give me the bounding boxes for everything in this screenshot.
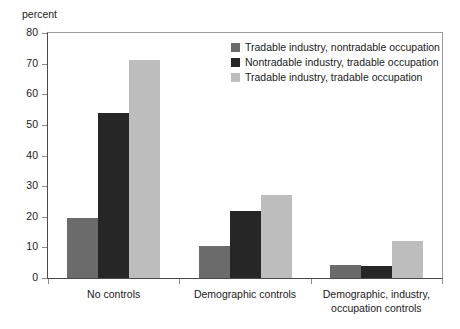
- bar: [199, 246, 230, 278]
- x-axis-category-label-line: occupation controls: [311, 302, 442, 316]
- y-axis-tick-label: 10: [26, 240, 38, 253]
- y-axis-tick-label: 40: [26, 149, 38, 162]
- legend-item: Nontradable industry, tradable occupatio…: [231, 56, 440, 70]
- x-axis-category-label: Demographic controls: [179, 288, 310, 302]
- y-axis-tick-label: 50: [26, 118, 38, 131]
- legend-swatch-icon: [231, 58, 240, 67]
- x-axis-tick-mark: [179, 279, 180, 284]
- bar: [261, 195, 292, 278]
- bar: [330, 265, 361, 278]
- bar: [129, 60, 160, 278]
- legend-swatch-icon: [231, 43, 240, 52]
- legend-item-label: Tradable industry, tradable occupation: [245, 71, 422, 85]
- x-axis-category-label-line: No controls: [48, 288, 179, 302]
- x-axis-tick-mark: [442, 279, 443, 284]
- y-axis-tick-mark: [42, 217, 47, 218]
- y-axis-tick-label: 30: [26, 179, 38, 192]
- x-axis-category-label: No controls: [48, 288, 179, 302]
- x-axis-tick-mark: [311, 279, 312, 284]
- x-axis-tick-mark: [48, 279, 49, 284]
- legend-swatch-icon: [231, 73, 240, 82]
- legend-item: Tradable industry, nontradable occupatio…: [231, 41, 440, 55]
- x-axis-category-label-line: Demographic, industry,: [311, 288, 442, 302]
- y-axis-tick-label: 20: [26, 210, 38, 223]
- y-axis-tick-label: 0: [32, 271, 38, 284]
- x-axis-category-label: Demographic, industry,occupation control…: [311, 288, 442, 315]
- bar: [67, 218, 98, 278]
- y-axis-tick-mark: [42, 94, 47, 95]
- legend-item: Tradable industry, tradable occupation: [231, 71, 440, 85]
- y-axis-tick-mark: [42, 125, 47, 126]
- legend-item-label: Tradable industry, nontradable occupatio…: [245, 41, 440, 55]
- bar-chart: percent 01020304050607080 No controlsDem…: [0, 0, 460, 329]
- y-axis-tick-mark: [42, 186, 47, 187]
- legend-item-label: Nontradable industry, tradable occupatio…: [245, 56, 439, 70]
- legend: Tradable industry, nontradable occupatio…: [231, 41, 440, 86]
- y-axis-tick-label: 80: [26, 26, 38, 39]
- y-axis-tick-label: 70: [26, 57, 38, 70]
- y-axis-tick-mark: [42, 278, 47, 279]
- bar: [361, 266, 392, 278]
- y-axis-tick-label: 60: [26, 87, 38, 100]
- bar: [392, 241, 423, 278]
- bar: [230, 211, 261, 278]
- bar: [98, 113, 129, 278]
- y-axis-tick-mark: [42, 33, 47, 34]
- y-axis-tick-mark: [42, 247, 47, 248]
- y-axis-unit-caption: percent: [22, 8, 57, 20]
- y-axis-tick-mark: [42, 64, 47, 65]
- y-axis-tick-mark: [42, 156, 47, 157]
- x-axis-category-label-line: Demographic controls: [179, 288, 310, 302]
